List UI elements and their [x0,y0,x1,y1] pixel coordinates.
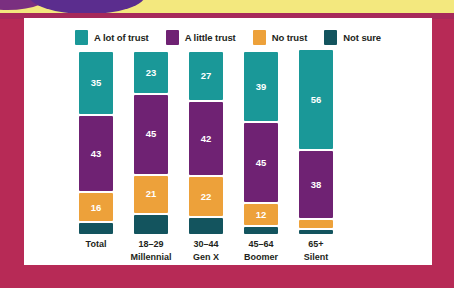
bar-column-1[interactable]: 23452111 [134,52,168,234]
chart-x-axis: Total18–29Millennial30–44Gen X45–64Boome… [79,238,379,272]
legend-label-0: A lot of trust [94,32,149,43]
legend-item-1[interactable]: A little trust [166,30,236,45]
bar-segment-1-2[interactable]: 21 [134,176,168,213]
legend-swatch-a-little-trust [166,30,179,45]
bar-value-label: 35 [91,78,102,88]
bar-value-label: 23 [146,68,157,78]
legend-item-0[interactable]: A lot of trust [75,30,149,45]
bar-segment-2-0[interactable]: 27 [189,52,223,100]
banner-ellipse [28,0,146,13]
screenshot-root: A lot of trustA little trustNo trustNot … [0,0,454,288]
bar-segment-1-3[interactable]: 11 [134,215,168,234]
top-decorative-banner [0,0,454,13]
bar-value-label: 56 [311,95,322,105]
bar-segment-1-1[interactable]: 45 [134,95,168,174]
bar-segment-3-1[interactable]: 45 [244,123,278,202]
legend-swatch-a-lot-of-trust [75,30,88,45]
bar-column-3[interactable]: 3945124 [244,52,278,234]
bar-segment-3-2[interactable]: 12 [244,204,278,225]
bar-value-label: 22 [201,192,212,202]
bar-value-label: 45 [146,129,157,139]
x-axis-tick-label-primary: 65+ [284,238,348,251]
bar-segment-3-3[interactable]: 4 [244,227,278,234]
bar-segment-2-3[interactable]: 9 [189,218,223,234]
x-axis-tick-4: 65+Silent [284,238,348,263]
bar-segment-0-0[interactable]: 35 [79,52,113,114]
bar-segment-4-2[interactable]: 5 [299,220,333,229]
x-axis-tick-label-secondary: Silent [284,251,348,264]
bar-column-0[interactable]: 3543166 [79,52,113,234]
bar-value-label: 42 [201,134,212,144]
legend-item-3[interactable]: Not sure [324,30,381,45]
bar-value-label: 16 [91,203,102,213]
bar-value-label: 39 [256,82,267,92]
bar-value-label: 45 [256,158,267,168]
bar-segment-0-3[interactable]: 6 [79,223,113,234]
bar-column-4[interactable]: 563852 [299,50,333,234]
legend-label-3: Not sure [343,32,381,43]
legend-item-2[interactable]: No trust [253,30,308,45]
bar-value-label: 12 [256,210,267,220]
bar-column-2[interactable]: 2742229 [189,52,223,234]
bar-segment-0-2[interactable]: 16 [79,193,113,221]
bar-segment-3-0[interactable]: 39 [244,52,278,121]
legend-label-2: No trust [272,32,308,43]
bar-segment-2-2[interactable]: 22 [189,177,223,216]
bar-value-label: 21 [146,189,157,199]
bar-segment-4-3[interactable]: 2 [299,230,333,234]
bar-value-label: 38 [311,180,322,190]
legend-label-1: A little trust [185,32,236,43]
bar-segment-4-0[interactable]: 56 [299,50,333,149]
legend-swatch-not-sure [324,30,337,45]
bar-segment-2-1[interactable]: 42 [189,102,223,176]
bar-value-label: 43 [91,149,102,159]
bar-segment-1-0[interactable]: 23 [134,52,168,92]
chart-legend: A lot of trustA little trustNo trustNot … [24,30,432,45]
chart-plot-area: 35431662345211127422293945124563852 [79,58,379,234]
bar-value-label: 27 [201,71,212,81]
bar-segment-0-1[interactable]: 43 [79,116,113,192]
legend-swatch-no-trust [253,30,266,45]
bar-segment-4-1[interactable]: 38 [299,151,333,218]
chart-card: A lot of trustA little trustNo trustNot … [24,18,432,265]
